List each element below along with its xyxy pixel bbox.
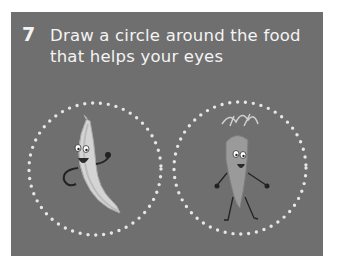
option-carrot[interactable] xyxy=(174,102,306,234)
carrot-character-icon xyxy=(215,114,270,220)
option-banana[interactable] xyxy=(29,103,161,235)
banana-character-icon xyxy=(64,115,120,213)
options-art xyxy=(0,0,340,264)
